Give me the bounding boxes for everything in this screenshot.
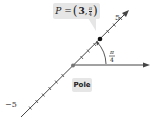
pole-label: Pole	[72, 78, 92, 92]
angle-arc	[97, 42, 106, 64]
point-label-prefix: P =	[55, 6, 71, 16]
tick-label-positive: 5	[115, 13, 120, 22]
tick-label-negative: −5	[5, 100, 17, 109]
polar-axis-arrow-icon	[143, 63, 150, 68]
angle-label-num: π	[109, 48, 115, 55]
point-p	[98, 37, 103, 42]
point-label-comma: ,	[85, 6, 88, 16]
polar-diagram: π 4 5 −5	[0, 0, 158, 127]
callout-pointer	[88, 18, 96, 31]
paren-close: )	[93, 4, 98, 18]
paren-open: (	[73, 4, 78, 18]
point-p-label: P = ( 3 , π 4 )	[53, 3, 100, 19]
point-label-theta-den: 4	[89, 12, 92, 17]
pole-point	[71, 64, 75, 68]
angle-label-den: 4	[110, 56, 114, 63]
